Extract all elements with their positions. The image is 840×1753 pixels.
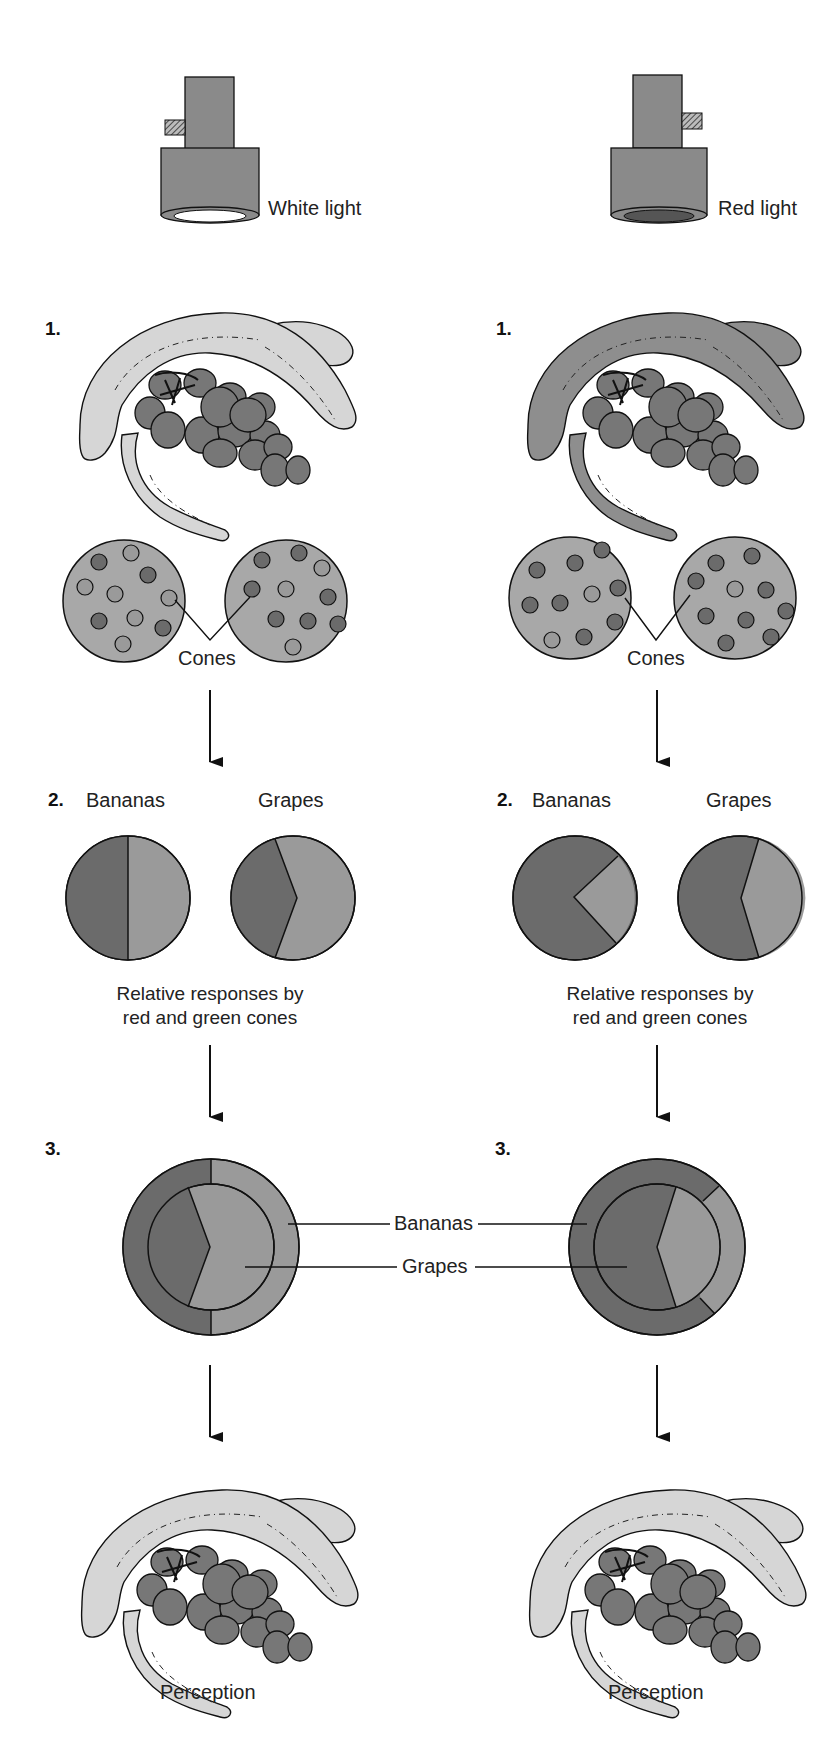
- retina-red-left: [509, 537, 631, 659]
- bananas-label-red: Bananas: [532, 789, 611, 812]
- perception-label-red: Perception: [608, 1681, 704, 1704]
- step2-number-red: 2.: [497, 789, 513, 811]
- combined-response-red: [569, 1159, 745, 1335]
- center-label-bananas: Bananas: [394, 1212, 473, 1235]
- diagram-graphics: #fruit .grapes ellipse { fill: #777777; …: [0, 0, 840, 1753]
- grapes-label-white: Grapes: [258, 789, 324, 812]
- white-light-label: White light: [268, 197, 361, 220]
- cones-label-red: Cones: [627, 647, 685, 670]
- retina-white-right: [225, 540, 347, 662]
- step2-caption-white: Relative responses by red and green cone…: [80, 982, 340, 1030]
- red-lamp-icon: [611, 75, 707, 223]
- grapes-label-red: Grapes: [706, 789, 772, 812]
- step2-number-white: 2.: [48, 789, 64, 811]
- step1-number-white: 1.: [45, 318, 61, 340]
- fruit-under-red-light: [528, 313, 804, 541]
- step3-number-red: 3.: [495, 1138, 511, 1160]
- red-light-label: Red light: [718, 197, 797, 220]
- step3-number-white: 3.: [45, 1138, 61, 1160]
- pie-white-bananas: [66, 836, 190, 960]
- combined-response-white: [123, 1159, 299, 1335]
- white-lamp-icon: [161, 77, 259, 223]
- fruit-under-white-light: [80, 313, 356, 541]
- step1-number-red: 1.: [496, 318, 512, 340]
- bananas-label-white: Bananas: [86, 789, 165, 812]
- center-label-grapes: Grapes: [402, 1255, 468, 1278]
- step2-caption-red: Relative responses by red and green cone…: [530, 982, 790, 1030]
- pie-red-grapes: [678, 836, 805, 960]
- pie-red-bananas: [513, 836, 637, 960]
- cones-label-white: Cones: [178, 647, 236, 670]
- retina-red-right: [674, 537, 796, 659]
- pie-white-grapes: [230, 836, 355, 960]
- perception-label-white: Perception: [160, 1681, 256, 1704]
- retina-white-left: [63, 540, 185, 662]
